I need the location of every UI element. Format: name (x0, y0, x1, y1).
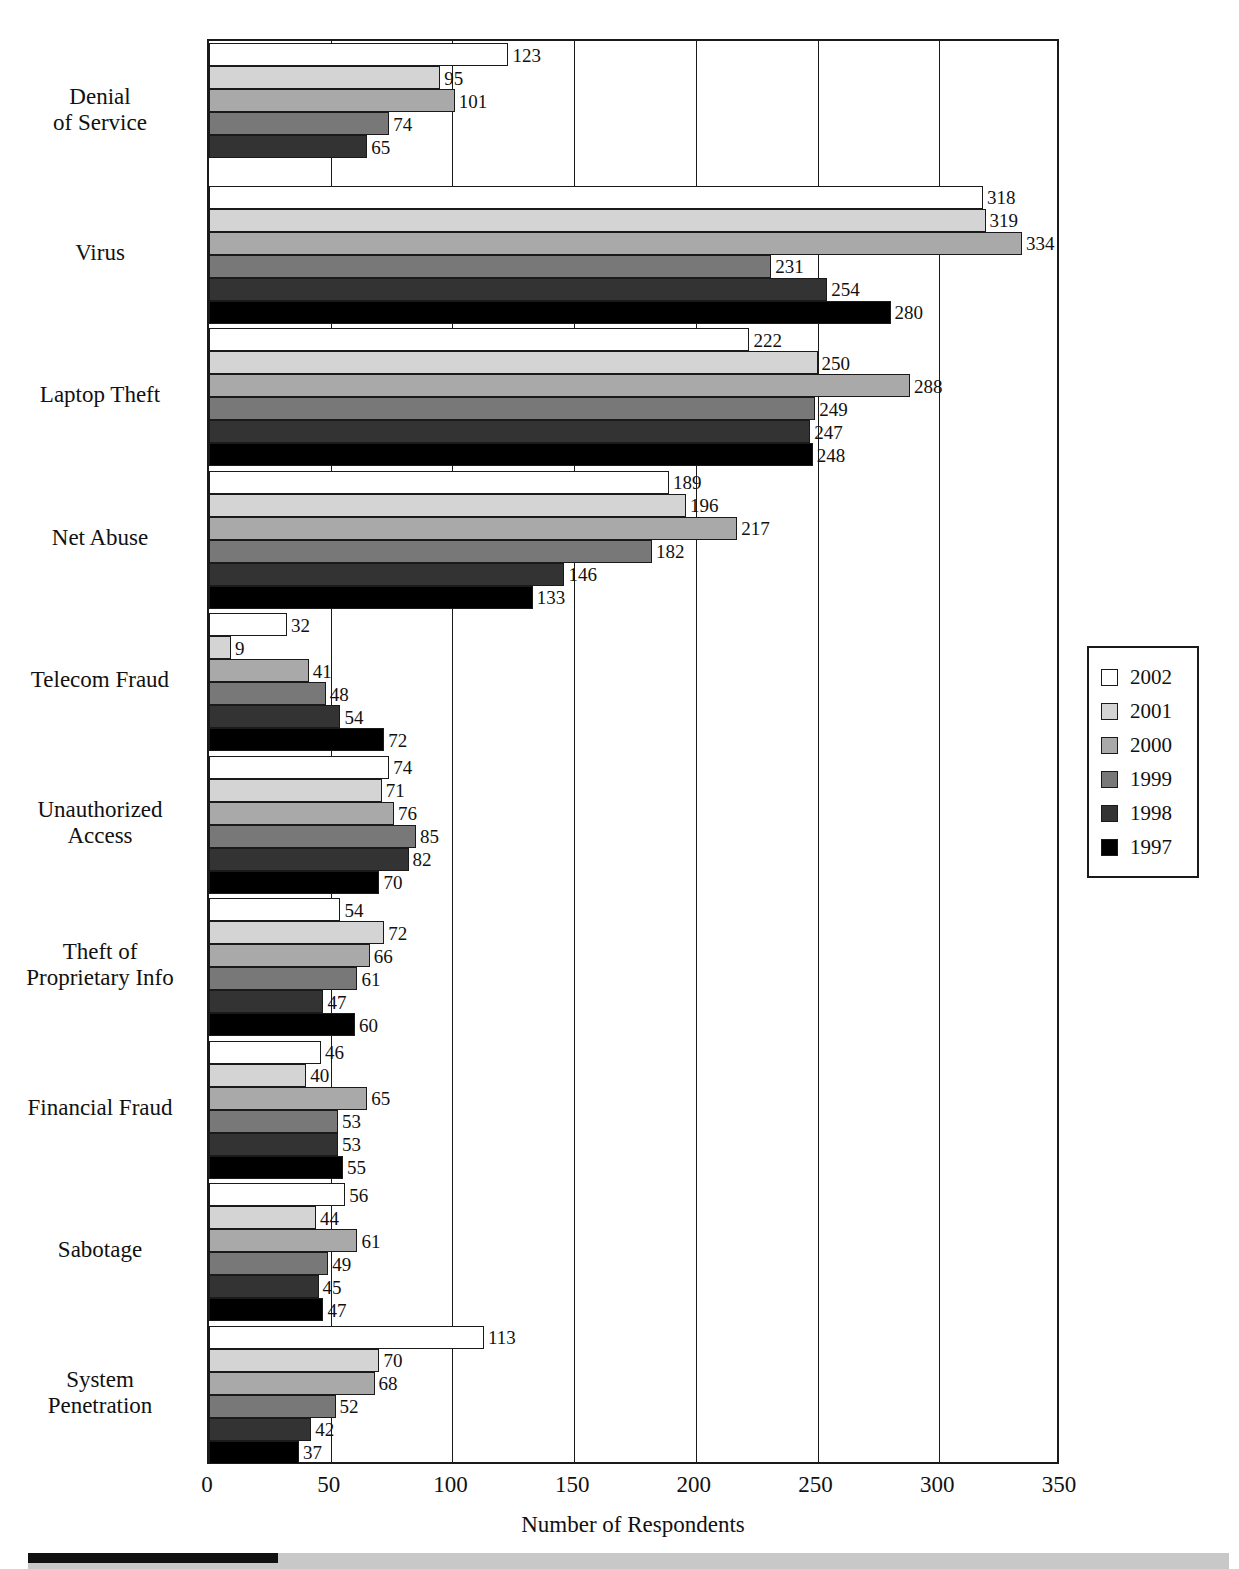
bar-value-label: 65 (367, 137, 390, 156)
category-label-line: Financial Fraud (0, 1095, 200, 1121)
bar-2001-2[interactable] (209, 351, 818, 374)
bar-1999-1[interactable] (209, 255, 771, 278)
bar-2001-4[interactable] (209, 636, 231, 659)
bar-2000-0[interactable] (209, 89, 455, 112)
bar-2001-3[interactable] (209, 494, 686, 517)
bar-value-label: 54 (340, 707, 363, 726)
bar-1999-3[interactable] (209, 540, 652, 563)
bar-1998-3[interactable] (209, 563, 564, 586)
bar-1999-8[interactable] (209, 1252, 328, 1275)
bar-2002-0[interactable] (209, 43, 508, 66)
bar-1998-5[interactable] (209, 848, 409, 871)
bar-1997-3[interactable] (209, 586, 533, 609)
bar-2000-9[interactable] (209, 1372, 375, 1395)
bar-2002-8[interactable] (209, 1183, 345, 1206)
bar-group: 123951017465 (209, 43, 1057, 181)
category-label-3: Net Abuse (0, 525, 200, 551)
bar-group: 318319334231254280 (209, 186, 1057, 324)
bar-1997-9[interactable] (209, 1441, 299, 1464)
bar-1998-2[interactable] (209, 420, 810, 443)
legend-item-2001[interactable]: 2001 (1089, 694, 1197, 728)
bar-row: 61 (209, 1229, 1057, 1252)
bar-row: 133 (209, 586, 1057, 609)
category-label-line: of Service (0, 110, 200, 136)
bar-2000-2[interactable] (209, 374, 910, 397)
legend-swatch-icon (1101, 669, 1118, 686)
category-label-line: Unauthorized (0, 797, 200, 823)
bar-1999-6[interactable] (209, 967, 357, 990)
bar-1998-8[interactable] (209, 1275, 319, 1298)
bar-row: 53 (209, 1110, 1057, 1133)
category-label-9: SystemPenetration (0, 1367, 200, 1419)
bar-1998-0[interactable] (209, 135, 367, 158)
bar-2001-7[interactable] (209, 1064, 306, 1087)
bar-1997-8[interactable] (209, 1298, 323, 1321)
legend-item-1997[interactable]: 1997 (1089, 830, 1197, 864)
bar-1997-5[interactable] (209, 871, 379, 894)
bar-2001-0[interactable] (209, 66, 440, 89)
bar-1999-2[interactable] (209, 397, 815, 420)
bar-1997-6[interactable] (209, 1013, 355, 1036)
bar-2000-4[interactable] (209, 659, 309, 682)
bar-row: 72 (209, 921, 1057, 944)
bar-row: 123 (209, 43, 1057, 66)
bar-1999-0[interactable] (209, 112, 389, 135)
bar-2001-5[interactable] (209, 779, 382, 802)
bar-1999-4[interactable] (209, 682, 326, 705)
bar-chart-figure: Denialof ServiceVirusLaptop TheftNet Abu… (0, 0, 1239, 1569)
bar-value-label: 74 (389, 758, 412, 777)
x-tick-label: 200 (677, 1472, 712, 1498)
bar-1997-7[interactable] (209, 1156, 343, 1179)
bar-2002-2[interactable] (209, 328, 749, 351)
bar-2001-6[interactable] (209, 921, 384, 944)
bar-2000-8[interactable] (209, 1229, 357, 1252)
bar-1999-5[interactable] (209, 825, 416, 848)
bar-row: 196 (209, 494, 1057, 517)
bar-2000-5[interactable] (209, 802, 394, 825)
bar-1998-9[interactable] (209, 1418, 311, 1441)
bar-2000-1[interactable] (209, 232, 1022, 255)
bar-2001-9[interactable] (209, 1349, 379, 1372)
bar-row: 37 (209, 1441, 1057, 1464)
bar-2002-3[interactable] (209, 471, 669, 494)
bar-group: 1137068524237 (209, 1326, 1057, 1464)
bar-2000-7[interactable] (209, 1087, 367, 1110)
bar-1998-7[interactable] (209, 1133, 338, 1156)
bar-2002-4[interactable] (209, 613, 287, 636)
bar-value-label: 254 (827, 280, 860, 299)
bar-2002-5[interactable] (209, 756, 389, 779)
bar-2002-7[interactable] (209, 1041, 321, 1064)
bar-1998-4[interactable] (209, 705, 340, 728)
bar-2002-6[interactable] (209, 898, 340, 921)
bar-1999-9[interactable] (209, 1395, 336, 1418)
bar-2002-1[interactable] (209, 186, 983, 209)
category-label-line: Denial (0, 84, 200, 110)
bar-2001-1[interactable] (209, 209, 986, 232)
legend-item-1998[interactable]: 1998 (1089, 796, 1197, 830)
bar-row: 70 (209, 871, 1057, 894)
bar-row: 318 (209, 186, 1057, 209)
legend-item-1999[interactable]: 1999 (1089, 762, 1197, 796)
bar-value-label: 61 (357, 969, 380, 988)
bar-1997-1[interactable] (209, 301, 891, 324)
bar-1997-2[interactable] (209, 443, 813, 466)
bar-value-label: 49 (328, 1254, 351, 1273)
bar-value-label: 56 (345, 1185, 368, 1204)
bar-value-label: 280 (891, 303, 924, 322)
category-label-4: Telecom Fraud (0, 667, 200, 693)
bar-2002-9[interactable] (209, 1326, 484, 1349)
legend-label: 2002 (1130, 665, 1172, 690)
bar-1997-4[interactable] (209, 728, 384, 751)
bar-row: 319 (209, 209, 1057, 232)
legend-item-2000[interactable]: 2000 (1089, 728, 1197, 762)
bar-1999-7[interactable] (209, 1110, 338, 1133)
bar-1998-6[interactable] (209, 990, 323, 1013)
bar-value-label: 47 (323, 1300, 346, 1319)
bar-2000-6[interactable] (209, 944, 370, 967)
bar-row: 71 (209, 779, 1057, 802)
bar-1998-1[interactable] (209, 278, 827, 301)
category-label-1: Virus (0, 240, 200, 266)
bar-2000-3[interactable] (209, 517, 737, 540)
legend-item-2002[interactable]: 2002 (1089, 660, 1197, 694)
bar-2001-8[interactable] (209, 1206, 316, 1229)
